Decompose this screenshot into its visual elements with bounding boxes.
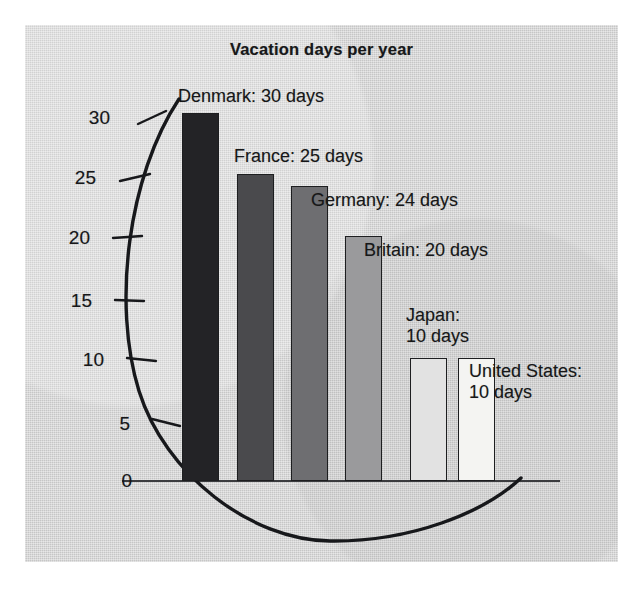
bar-germany[interactable] bbox=[291, 186, 328, 481]
y-tick-label-30: 30 bbox=[62, 107, 110, 129]
y-tick-marks bbox=[113, 111, 180, 426]
bar-label-japan: Japan: 10 days bbox=[406, 305, 469, 347]
bar-label-denmark: Denmark: 30 days bbox=[178, 86, 324, 107]
chart-page: Vacation days per year 30 25 20 15 10 5 … bbox=[0, 0, 643, 589]
bar-japan[interactable] bbox=[410, 358, 447, 481]
bar-denmark[interactable] bbox=[182, 113, 219, 481]
bar-label-united-states: United States: 10 days bbox=[469, 361, 582, 403]
bar-label-germany: Germany: 24 days bbox=[311, 190, 458, 211]
page-title: Vacation days per year bbox=[0, 40, 643, 59]
plot-area: Vacation days per year 30 25 20 15 10 5 … bbox=[0, 0, 643, 589]
y-tick-label-15: 15 bbox=[44, 290, 92, 312]
y-tick-label-20: 20 bbox=[42, 227, 90, 249]
y-tick-label-25: 25 bbox=[48, 167, 96, 189]
bar-label-france: France: 25 days bbox=[234, 146, 363, 167]
y-tick-label-10: 10 bbox=[56, 349, 104, 371]
y-tick-label-0: 0 bbox=[84, 470, 132, 492]
bar-france[interactable] bbox=[237, 174, 274, 481]
bar-label-britain: Britain: 20 days bbox=[364, 240, 488, 261]
bar-britain[interactable] bbox=[345, 236, 382, 481]
y-tick-label-5: 5 bbox=[82, 413, 130, 435]
